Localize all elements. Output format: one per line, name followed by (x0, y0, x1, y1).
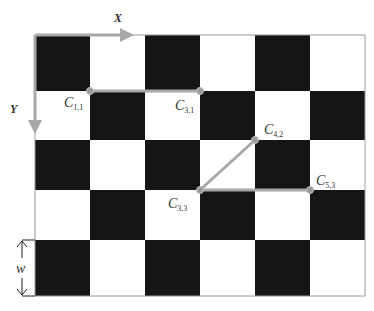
board-square (90, 91, 145, 140)
board-square (255, 140, 310, 190)
corner-point-c33 (197, 187, 204, 194)
board-square (310, 91, 365, 140)
checkerboard (35, 35, 365, 296)
board-square (310, 240, 365, 296)
y-axis-label: Y (10, 102, 19, 116)
board-square (255, 35, 310, 91)
board-square (35, 240, 90, 296)
board-square (145, 91, 200, 140)
board-square (90, 35, 145, 91)
corner-point-c53 (307, 187, 314, 194)
board-square (35, 35, 90, 91)
board-square (35, 190, 90, 240)
board-square (145, 35, 200, 91)
board-square (200, 35, 255, 91)
board-square (310, 35, 365, 91)
board-square (255, 240, 310, 296)
board-square (145, 240, 200, 296)
board-square (145, 140, 200, 190)
board-square (35, 140, 90, 190)
board-square (90, 140, 145, 190)
board-square (200, 240, 255, 296)
corner-point-c31 (197, 88, 204, 95)
board-square (90, 240, 145, 296)
board-square (200, 190, 255, 240)
board-square (200, 91, 255, 140)
checkerboard-diagram: X Y C1,1 C3,1 C4,2 C3,3 C5,3 w (0, 0, 374, 311)
board-square (255, 190, 310, 240)
width-label: w (16, 261, 26, 276)
board-square (35, 91, 90, 140)
board-square (90, 190, 145, 240)
corner-point-c42 (252, 137, 259, 144)
corner-point-c11 (87, 88, 94, 95)
board-square (310, 190, 365, 240)
x-axis-label: X (113, 11, 123, 25)
